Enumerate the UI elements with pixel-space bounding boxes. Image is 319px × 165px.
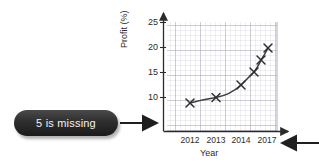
y-tick-label-10: 10	[140, 92, 158, 102]
x-tick-label-2017: 2017	[254, 135, 280, 145]
annotation-callout-label: 5 is missing	[36, 118, 96, 129]
x-tick-label-2013: 2013	[203, 135, 229, 145]
worksheet-figure: 25 20 15 10 2012 2013 2014 2017 Year Pro…	[0, 0, 319, 165]
x-axis-title: Year	[200, 148, 218, 158]
y-tick-label-25: 25	[140, 17, 158, 27]
y-tick-label-15: 15	[140, 67, 158, 77]
x-tick-label-2012: 2012	[177, 135, 203, 145]
x-tick-label-2014: 2014	[228, 135, 254, 145]
y-tick-label-20: 20	[140, 42, 158, 52]
annotation-callout[interactable]: 5 is missing	[14, 110, 118, 136]
y-axis-title: Profit (%)	[119, 10, 129, 48]
grid-major	[167, 22, 277, 131]
